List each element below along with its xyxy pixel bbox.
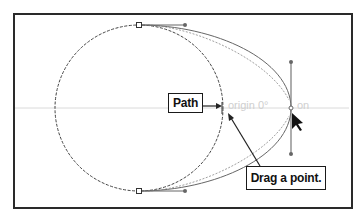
top-handle-icon[interactable] [183, 23, 187, 27]
upper-handle-icon[interactable] [289, 60, 293, 64]
bottom-anchor-icon[interactable] [137, 189, 142, 194]
dragged-anchor-icon[interactable] [289, 106, 293, 110]
dragged-anchor-point[interactable] [289, 60, 293, 156]
lower-handle-icon[interactable] [289, 152, 293, 156]
smart-guide-label-origin: origin 0° [228, 99, 268, 111]
path-callout: Path [168, 93, 203, 113]
smart-guide-label-on: on [297, 99, 309, 111]
drag-arrowhead-icon [228, 113, 234, 121]
diagram-canvas: origin 0° on Path Drag a point. [0, 0, 361, 214]
drag-point-callout: Drag a point. [246, 166, 326, 190]
top-anchor-icon[interactable] [137, 23, 142, 28]
reshaped-path-preview-top [148, 25, 289, 100]
cursor-arrow-icon [292, 113, 303, 131]
bottom-handle-icon[interactable] [183, 189, 187, 193]
